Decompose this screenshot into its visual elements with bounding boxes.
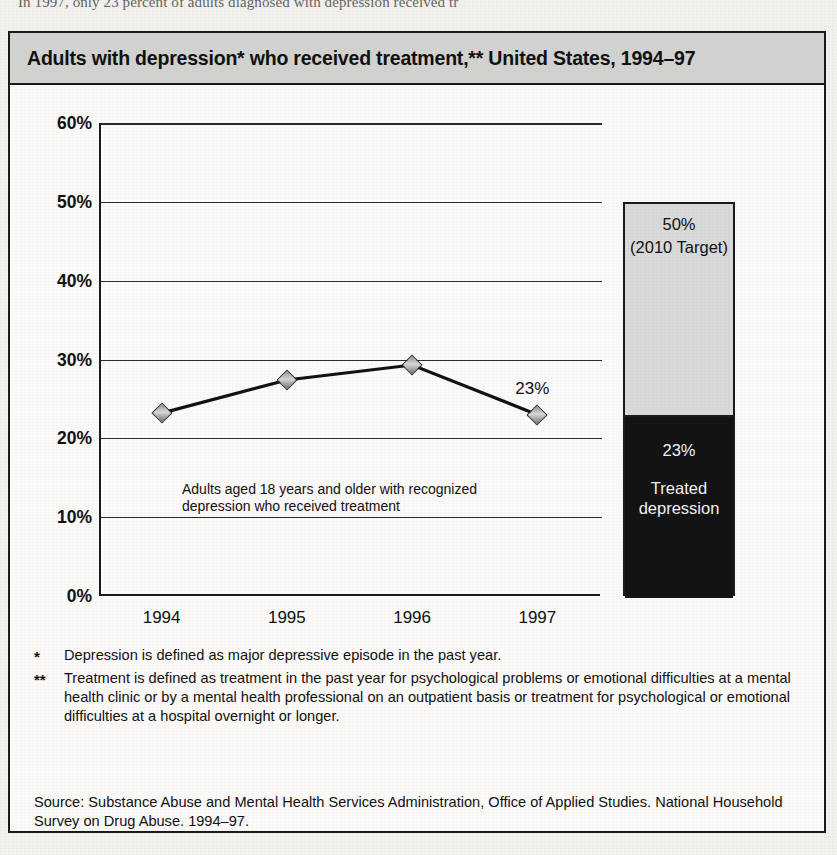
footnote-mark: * [34, 646, 64, 666]
page-title: Adults with depression* who received tre… [10, 47, 695, 70]
footnote-mark: ** [34, 669, 64, 727]
footnotes: * Depression is defined as major depress… [10, 638, 824, 730]
bar-segment-target: 50% (2010 Target) [625, 204, 733, 417]
bar-segment-treated: 23% Treated depression [625, 417, 733, 598]
y-axis-tick: 50% [57, 191, 101, 212]
y-axis-tick: 60% [57, 113, 101, 134]
source-note: Source: Substance Abuse and Mental Healt… [34, 793, 798, 832]
page-cutoff-text: In 1997, only 23 percent of adults diagn… [18, 0, 718, 12]
series-line [162, 365, 538, 415]
y-axis-tick: 10% [57, 507, 101, 528]
data-point-label: 23% [515, 379, 549, 399]
footnote-row: ** Treatment is defined as treatment in … [34, 669, 798, 727]
footnote-text: Depression is defined as major depressiv… [64, 646, 501, 666]
bar-treated-label: Treated depression [625, 478, 733, 518]
y-axis-tick: 0% [67, 586, 101, 607]
footnote-text: Treatment is defined as treatment in the… [64, 669, 798, 727]
companion-stacked-bar: 50% (2010 Target) 23% Treated depression [623, 202, 735, 596]
figure-header-band: Adults with depression* who received tre… [10, 33, 824, 85]
series-annotation: Adults aged 18 years and older with reco… [182, 481, 477, 514]
y-axis-tick: 40% [57, 270, 101, 291]
x-axis-label-1996: 1996 [393, 608, 431, 628]
line-series-svg [99, 123, 600, 596]
x-axis-label-1997: 1997 [518, 608, 556, 628]
x-axis-label-1995: 1995 [268, 608, 306, 628]
y-axis-tick: 30% [57, 349, 101, 370]
figure-container: Adults with depression* who received tre… [8, 31, 826, 833]
y-axis-tick: 20% [57, 428, 101, 449]
x-axis-labels: 1994199519961997 [99, 596, 600, 630]
bar-treated-value: 23% [662, 441, 695, 460]
footnote-row: * Depression is defined as major depress… [34, 646, 798, 666]
bar-target-value: 50% [662, 215, 695, 234]
x-axis-label-1994: 1994 [143, 608, 181, 628]
plot-area: 0%10%20%30%40%50%60% 23% 199419951996199… [10, 83, 824, 638]
bar-target-label: (2010 Target) [630, 238, 728, 257]
